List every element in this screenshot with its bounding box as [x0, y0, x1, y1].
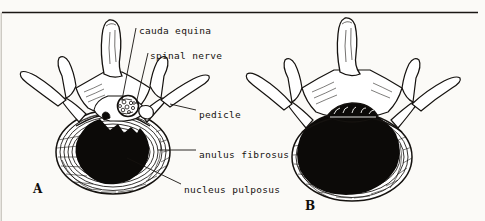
anatomical-figure: cauda equina spinal nerve pedicle anulus… — [0, 0, 485, 221]
panel-letter-a: A — [33, 183, 42, 195]
panel-letter-b: B — [305, 200, 315, 212]
label-cauda-equina: cauda equina — [139, 26, 211, 36]
label-anulus-fibrosus: anulus fibrosus — [199, 150, 289, 160]
spinal-nerve-a — [139, 106, 154, 120]
label-nucleus-pulposus: nucleus pulposus — [184, 185, 280, 195]
spinous-process-a — [101, 20, 122, 77]
label-pedicle: pedicle — [199, 110, 241, 120]
label-spinal-nerve: spinal nerve — [150, 51, 222, 61]
